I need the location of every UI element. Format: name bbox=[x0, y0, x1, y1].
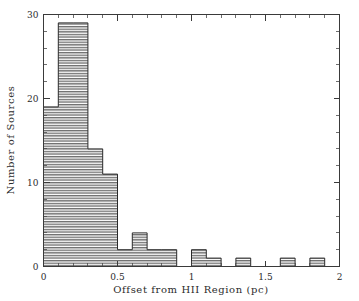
histogram-plot: 00.511.52 0102030 Offset from HII Region… bbox=[0, 0, 359, 301]
histogram-bar bbox=[280, 258, 295, 266]
histogram-bar bbox=[88, 149, 103, 267]
histogram-bar bbox=[147, 250, 162, 267]
histogram-bar bbox=[73, 23, 88, 267]
histogram-bar bbox=[118, 250, 133, 267]
histogram-bar bbox=[310, 258, 325, 266]
x-tick-label: 2 bbox=[337, 272, 343, 282]
histogram-bar bbox=[58, 23, 73, 267]
x-tick-label: 1 bbox=[189, 272, 195, 282]
histogram-bar bbox=[236, 258, 251, 266]
x-tick-label: 0.5 bbox=[110, 272, 125, 282]
y-tick-label: 0 bbox=[33, 262, 39, 272]
histogram-bar bbox=[132, 233, 147, 267]
y-tick-label: 20 bbox=[27, 94, 39, 104]
x-tick-label: 1.5 bbox=[258, 272, 273, 282]
y-tick-labels: 0102030 bbox=[27, 10, 39, 272]
histogram-bar bbox=[162, 250, 177, 267]
x-tick-label: 0 bbox=[41, 272, 47, 282]
histogram-bar bbox=[44, 107, 59, 267]
histogram-bar bbox=[103, 174, 118, 266]
y-axis-title: Number of Sources bbox=[5, 86, 16, 195]
x-tick-labels: 00.511.52 bbox=[41, 272, 343, 282]
histogram-bar bbox=[206, 258, 221, 266]
histogram-bar bbox=[192, 250, 207, 267]
x-axis-title: Offset from HII Region (pc) bbox=[113, 284, 269, 295]
histogram-figure: 00.511.52 0102030 Offset from HII Region… bbox=[0, 0, 359, 301]
y-tick-label: 30 bbox=[27, 10, 39, 20]
y-tick-label: 10 bbox=[27, 178, 39, 188]
